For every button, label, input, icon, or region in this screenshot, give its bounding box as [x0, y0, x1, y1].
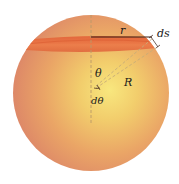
sphere-figure: r ds θ R dθ: [0, 0, 179, 184]
sphere-diagram: r ds θ R dθ: [0, 0, 179, 184]
label-r: r: [120, 24, 126, 37]
label-dtheta: dθ: [91, 95, 103, 106]
label-theta: θ: [95, 67, 102, 80]
label-R: R: [123, 76, 132, 89]
label-ds: ds: [157, 27, 170, 40]
ring-band: [25, 36, 157, 52]
